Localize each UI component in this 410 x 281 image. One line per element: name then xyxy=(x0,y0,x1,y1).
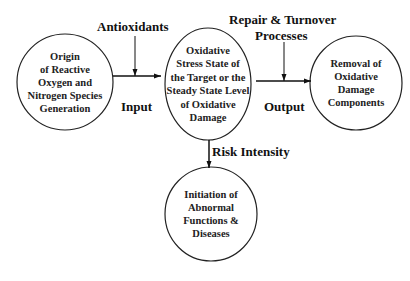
removal-node-text: Removal of Oxidative Damage Components xyxy=(310,36,402,130)
origin-line-3: Oxygen and xyxy=(28,76,103,89)
repair-label-line1: Repair & Turnover xyxy=(229,12,336,28)
removal-line-3: Damage xyxy=(328,83,385,96)
stress-line-4: Steady State Level xyxy=(167,84,250,98)
origin-line-2: of Reactive xyxy=(28,63,103,76)
removal-line-4: Components xyxy=(328,96,385,109)
stress-line-6: Damage xyxy=(167,111,250,125)
origin-line-5: Generation xyxy=(28,102,103,115)
stress-line-2: Stress State of xyxy=(167,57,250,71)
disease-line-3: Functions & xyxy=(183,214,239,227)
input-label: Input xyxy=(121,99,152,115)
stress-line-1: Oxidative xyxy=(167,44,250,58)
repair-label-line2: Processes xyxy=(255,28,307,44)
disease-line-4: Diseases xyxy=(183,227,239,240)
origin-line-1: Origin xyxy=(28,50,103,63)
output-label: Output xyxy=(264,99,304,115)
stress-line-5: of Oxidative xyxy=(167,98,250,112)
stress-line-3: the Target or the xyxy=(167,71,250,85)
stress-node-text: Oxidative Stress State of the Target or … xyxy=(163,28,253,140)
disease-line-1: Initiation of xyxy=(183,188,239,201)
removal-line-1: Removal of xyxy=(328,57,385,70)
disease-node-text: Initiation of Abnormal Functions & Disea… xyxy=(165,167,257,261)
origin-node-text: Origin of Reactive Oxygen and Nitrogen S… xyxy=(17,36,113,128)
removal-line-2: Oxidative xyxy=(328,70,385,83)
risk-intensity-label: Risk Intensity xyxy=(212,144,290,160)
disease-line-2: Abnormal xyxy=(183,201,239,214)
origin-line-4: Nitrogen Species xyxy=(28,89,103,102)
antioxidants-label: Antioxidants xyxy=(97,19,169,35)
